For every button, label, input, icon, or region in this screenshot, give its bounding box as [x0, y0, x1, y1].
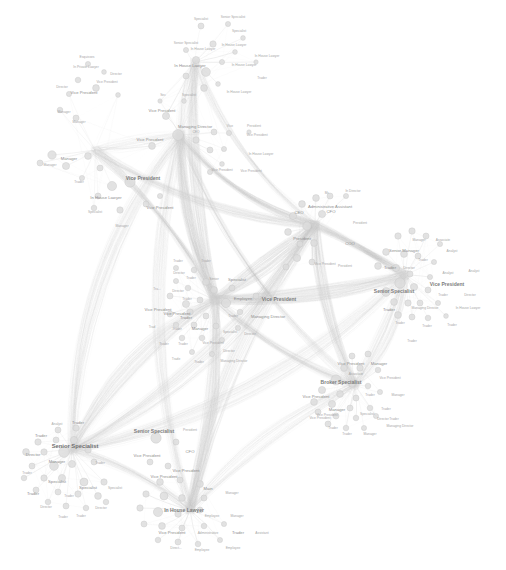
graph-node[interactable]	[365, 351, 371, 357]
graph-node[interactable]	[427, 274, 432, 279]
graph-node[interactable]	[375, 367, 381, 373]
graph-node[interactable]	[173, 130, 184, 141]
graph-node[interactable]	[431, 259, 436, 264]
graph-node[interactable]	[179, 335, 185, 341]
graph-node[interactable]	[415, 253, 421, 259]
graph-node[interactable]	[347, 405, 353, 411]
graph-node[interactable]	[97, 165, 103, 171]
graph-node[interactable]	[409, 314, 415, 320]
graph-node[interactable]	[209, 351, 214, 356]
graph-node[interactable]	[401, 251, 408, 258]
graph-node[interactable]	[444, 314, 449, 319]
graph-node[interactable]	[382, 288, 391, 297]
graph-node[interactable]	[199, 335, 205, 341]
graph-node[interactable]	[297, 241, 303, 247]
graph-node[interactable]	[331, 375, 341, 385]
graph-node[interactable]	[157, 193, 162, 198]
graph-node[interactable]	[221, 146, 226, 151]
graph-node[interactable]	[293, 254, 300, 261]
graph-node[interactable]	[213, 323, 219, 329]
graph-node[interactable]	[201, 85, 208, 92]
graph-node[interactable]	[203, 279, 210, 286]
graph-node[interactable]	[183, 47, 188, 52]
graph-node[interactable]	[210, 41, 216, 47]
graph-node[interactable]	[177, 477, 183, 483]
graph-node[interactable]	[143, 491, 149, 497]
graph-node[interactable]	[158, 99, 162, 103]
graph-node[interactable]	[101, 479, 107, 485]
graph-node[interactable]	[202, 68, 211, 77]
graph-node[interactable]	[409, 228, 415, 234]
graph-node[interactable]	[143, 201, 149, 207]
graph-node[interactable]	[198, 23, 204, 29]
graph-node[interactable]	[201, 523, 207, 529]
graph-node[interactable]	[417, 300, 423, 306]
graph-node[interactable]	[35, 439, 41, 445]
graph-node[interactable]	[55, 489, 61, 495]
graph-node[interactable]	[365, 383, 371, 389]
graph-node[interactable]	[247, 130, 251, 134]
graph-node[interactable]	[328, 400, 335, 407]
graph-node[interactable]	[102, 70, 107, 75]
graph-node[interactable]	[80, 478, 88, 486]
graph-node[interactable]	[59, 447, 70, 458]
graph-node[interactable]	[367, 405, 373, 411]
graph-node[interactable]	[173, 265, 178, 270]
graph-node[interactable]	[197, 297, 203, 303]
graph-node[interactable]	[241, 36, 246, 41]
graph-node[interactable]	[392, 264, 399, 271]
graph-node[interactable]	[318, 386, 325, 393]
graph-node[interactable]	[153, 507, 162, 516]
graph-node[interactable]	[226, 130, 231, 135]
graph-node[interactable]	[289, 212, 296, 219]
graph-node[interactable]	[160, 492, 168, 500]
graph-node[interactable]	[45, 499, 51, 505]
graph-node[interactable]	[375, 263, 382, 270]
graph-node[interactable]	[189, 349, 194, 354]
graph-node[interactable]	[155, 537, 161, 543]
graph-node[interactable]	[229, 285, 235, 291]
graph-node[interactable]	[191, 322, 197, 328]
graph-node[interactable]	[313, 195, 320, 202]
graph-node[interactable]	[91, 205, 97, 211]
graph-node[interactable]	[68, 460, 75, 467]
graph-node[interactable]	[103, 499, 109, 505]
graph-node[interactable]	[23, 449, 30, 456]
graph-node[interactable]	[353, 415, 359, 421]
graph-node[interactable]	[373, 413, 378, 418]
graph-node[interactable]	[353, 395, 359, 401]
graph-node[interactable]	[173, 322, 179, 328]
graph-node[interactable]	[75, 491, 81, 497]
graph-node[interactable]	[48, 151, 56, 159]
graph-node[interactable]	[66, 91, 71, 96]
graph-node[interactable]	[318, 210, 325, 217]
graph-node[interactable]	[41, 475, 47, 481]
graph-node[interactable]	[173, 439, 179, 445]
graph-node[interactable]	[219, 59, 224, 64]
graph-node[interactable]	[79, 175, 84, 180]
graph-node[interactable]	[283, 264, 289, 270]
graph-node[interactable]	[83, 505, 89, 511]
graph-node[interactable]	[183, 73, 189, 79]
graph-node[interactable]	[327, 193, 333, 199]
graph-node[interactable]	[233, 50, 238, 55]
graph-node[interactable]	[95, 493, 102, 500]
graph-node[interactable]	[216, 82, 221, 87]
graph-node[interactable]	[85, 61, 90, 66]
graph-node[interactable]	[211, 287, 218, 294]
graph-node[interactable]	[343, 193, 348, 198]
graph-node[interactable]	[343, 425, 349, 431]
graph-node[interactable]	[57, 107, 63, 113]
graph-node[interactable]	[193, 137, 199, 143]
graph-node[interactable]	[311, 240, 318, 247]
graph-node[interactable]	[361, 425, 366, 430]
graph-node[interactable]	[195, 541, 201, 547]
graph-node[interactable]	[207, 169, 212, 174]
graph-node[interactable]	[185, 285, 191, 291]
graph-node[interactable]	[167, 311, 173, 317]
graph-node[interactable]	[437, 241, 442, 246]
graph-node[interactable]	[37, 160, 43, 166]
graph-node[interactable]	[107, 181, 116, 190]
graph-node[interactable]	[55, 427, 61, 433]
graph-node[interactable]	[175, 511, 181, 517]
